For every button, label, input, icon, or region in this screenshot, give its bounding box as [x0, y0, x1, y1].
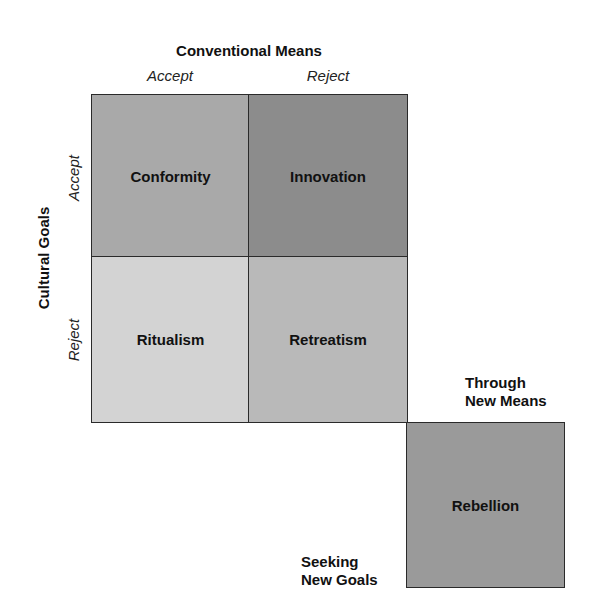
cell-innovation: Innovation — [248, 94, 408, 258]
cell-ritualism: Ritualism — [91, 256, 250, 423]
column-label-reject: Reject — [249, 67, 407, 84]
column-label-accept: Accept — [91, 67, 249, 84]
column-header: Conventional Means — [164, 42, 334, 59]
cell-conformity: Conformity — [91, 94, 250, 258]
row-header: Cultural Goals — [35, 198, 55, 318]
cell-retreatism: Retreatism — [248, 256, 408, 423]
cell-label: Retreatism — [289, 331, 367, 348]
label-line: New Goals — [301, 571, 378, 589]
label-line: New Means — [465, 392, 547, 410]
seeking-new-goals-label: Seeking New Goals — [301, 553, 378, 589]
cell-label: Rebellion — [452, 497, 520, 514]
cell-rebellion: Rebellion — [406, 422, 565, 588]
label-line: Through — [465, 374, 547, 392]
label-line: Seeking — [301, 553, 378, 571]
through-new-means-label: Through New Means — [465, 374, 547, 410]
row-label-accept: Accept — [65, 138, 85, 218]
cell-label: Innovation — [290, 168, 366, 185]
cell-label: Ritualism — [137, 331, 205, 348]
cell-label: Conformity — [131, 168, 211, 185]
row-label-reject: Reject — [65, 300, 85, 380]
